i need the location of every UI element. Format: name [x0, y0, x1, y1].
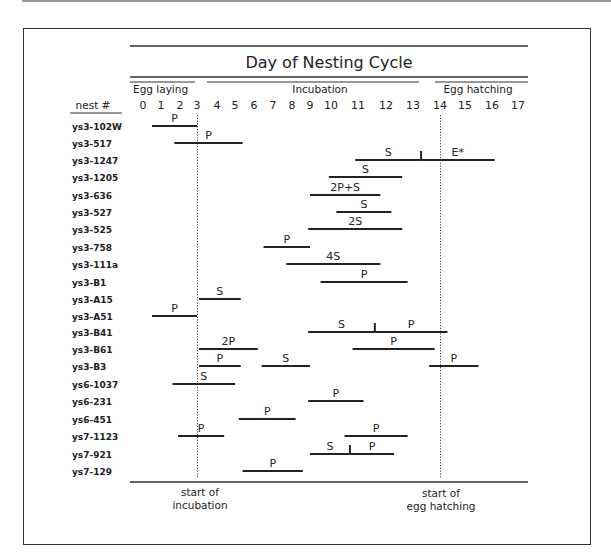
- nest-label: ys3-B3: [72, 362, 106, 372]
- nest-label: ys3-517: [72, 139, 112, 149]
- x-tick-label: 8: [289, 99, 296, 112]
- bar-label: P: [390, 335, 397, 348]
- chart-title: Day of Nesting Cycle: [245, 53, 412, 72]
- phase-label-egg-hatching: Egg hatching: [443, 83, 512, 95]
- bar-label: P: [264, 405, 271, 418]
- nesting-cycle-chart: Day of Nesting Cycle Egg laying Incubati…: [0, 0, 611, 558]
- nest-label: ys6-1037: [72, 380, 118, 390]
- nest-label: ys7-921: [72, 450, 112, 460]
- x-tick-label: 17: [511, 99, 525, 112]
- ref-label-hatching-1: start of: [422, 487, 460, 499]
- bar-label: P: [373, 422, 380, 435]
- x-tick-label: 4: [214, 99, 221, 112]
- nest-row: ys3-5252S: [72, 215, 402, 235]
- bar-label: 2P+S: [330, 181, 360, 194]
- nest-row: ys7-129P: [72, 457, 303, 477]
- nest-header: nest #: [76, 99, 111, 111]
- phase-label-incubation: Incubation: [292, 83, 347, 95]
- bar-label: P: [198, 422, 205, 435]
- bar-label: P: [205, 129, 212, 142]
- nest-row: ys3-B1P: [72, 268, 408, 288]
- x-tick-label: 7: [270, 99, 277, 112]
- nest-label: ys3-1205: [72, 173, 118, 183]
- x-axis-ticks: 01234567891011121314151617: [140, 99, 526, 112]
- bar-label: P: [451, 352, 458, 365]
- nest-row: ys3-A15S: [72, 285, 241, 305]
- bar-label: P: [171, 302, 178, 315]
- x-tick-label: 12: [379, 99, 393, 112]
- nest-label: ys3-A51: [72, 312, 113, 322]
- nest-label: ys3-102W: [72, 122, 122, 132]
- nest-label: ys3-111a: [72, 260, 118, 270]
- nest-row: ys3-B3PSP: [72, 352, 479, 372]
- bar-label: S: [282, 352, 289, 365]
- x-tick-label: 1: [158, 99, 165, 112]
- bar-label: P: [408, 318, 415, 331]
- nest-row: ys3-102WP: [72, 112, 197, 132]
- nest-row: ys3-1247SE*: [72, 146, 495, 166]
- nest-row: ys3-6362P+S: [72, 181, 380, 201]
- nest-label: ys3-1247: [72, 156, 118, 166]
- bar-label: S: [216, 285, 223, 298]
- nest-label: ys3-525: [72, 225, 112, 235]
- bar-label: S: [338, 318, 345, 331]
- nest-label: ys3-758: [72, 243, 112, 253]
- bar-label: S: [385, 146, 392, 159]
- ref-label-incubation-2: incubation: [172, 499, 227, 511]
- nest-label: ys3-B41: [72, 328, 113, 338]
- nest-label: ys7-129: [72, 467, 112, 477]
- bar-label: P: [217, 352, 224, 365]
- bar-label: P: [283, 233, 290, 246]
- bar-label: 2P: [222, 335, 236, 348]
- nest-row: ys3-758P: [72, 233, 310, 253]
- bar-label: S: [362, 163, 369, 176]
- x-tick-label: 0: [140, 99, 147, 112]
- x-tick-label: 11: [351, 99, 365, 112]
- bar-label: P: [333, 387, 340, 400]
- nest-label: ys7-1123: [72, 432, 118, 442]
- nest-label: ys6-231: [72, 397, 112, 407]
- nest-rows: ys3-102WPys3-517Pys3-1247SE*ys3-1205Sys3…: [72, 112, 495, 477]
- x-tick-label: 15: [458, 99, 472, 112]
- x-tick-label: 9: [307, 99, 314, 112]
- nest-label: ys3-B1: [72, 278, 106, 288]
- x-tick-label: 14: [433, 99, 447, 112]
- nest-row: ys3-111a4S: [72, 250, 380, 270]
- nest-row: ys7-1123PP: [72, 422, 408, 442]
- x-tick-label: 2: [177, 99, 184, 112]
- bar-label: P: [369, 440, 376, 453]
- nest-row: ys3-B612PP: [72, 335, 435, 355]
- bar-label: E*: [452, 146, 465, 159]
- bar-label: S: [360, 198, 367, 211]
- nest-label: ys6-451: [72, 415, 112, 425]
- nest-label: ys3-527: [72, 208, 112, 218]
- nest-row: ys3-517P: [72, 129, 243, 149]
- nest-row: ys6-451P: [72, 405, 296, 425]
- nest-row: ys3-527S: [72, 198, 391, 218]
- nest-row: ys7-921SP: [72, 440, 394, 460]
- bar-label: S: [200, 370, 207, 383]
- x-tick-label: 13: [406, 99, 420, 112]
- ref-label-incubation-1: start of: [181, 486, 219, 498]
- x-tick-label: 10: [324, 99, 338, 112]
- bar-label: P: [269, 457, 276, 470]
- ref-label-hatching-2: egg hatching: [407, 500, 476, 512]
- bar-label: P: [171, 112, 178, 125]
- nest-row: ys3-A51P: [72, 302, 197, 322]
- nest-label: ys3-B61: [72, 345, 113, 355]
- nest-label: ys3-636: [72, 191, 112, 201]
- phase-label-egg-laying: Egg laying: [133, 83, 188, 95]
- bar-label: 2S: [348, 215, 362, 228]
- nest-row: ys3-1205S: [72, 163, 402, 183]
- x-tick-label: 3: [194, 99, 201, 112]
- x-tick-label: 16: [485, 99, 499, 112]
- x-tick-label: 6: [251, 99, 258, 112]
- reference-lines: [198, 115, 441, 479]
- bar-label: S: [326, 440, 333, 453]
- bar-label: P: [361, 268, 368, 281]
- nest-label: ys3-A15: [72, 295, 113, 305]
- nest-row: ys6-231P: [72, 387, 364, 407]
- nest-row: ys6-1037S: [72, 370, 235, 390]
- x-tick-label: 5: [232, 99, 239, 112]
- bar-label: 4S: [326, 250, 340, 263]
